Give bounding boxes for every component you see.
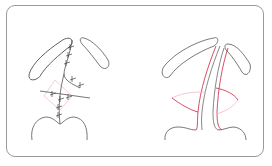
left-panel: [29, 38, 109, 140]
right-flap: [216, 88, 238, 100]
illustration: [0, 0, 272, 166]
right-panel-left-lobe: [162, 38, 218, 78]
stitches: [50, 44, 84, 118]
right-panel-lower-body: [165, 127, 246, 140]
right-panel: [162, 38, 250, 140]
left-flap-incision: [172, 98, 198, 112]
left-panel-diagonal: [40, 91, 90, 98]
right-panel-right-lobe: [225, 44, 250, 74]
left-panel-right-lobe: [80, 38, 109, 69]
right-flap-faint: [216, 100, 238, 114]
left-panel-left-lobe: [29, 38, 72, 80]
